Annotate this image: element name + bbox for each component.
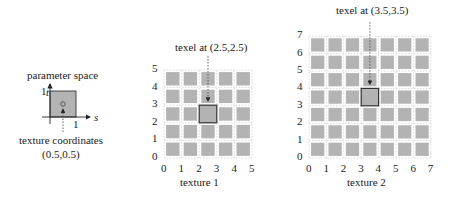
axis-s-label: s xyxy=(94,112,98,123)
texture2-texel xyxy=(415,108,428,121)
texture2-texel xyxy=(415,125,428,138)
texture2-texel xyxy=(381,56,394,69)
texture1-texel xyxy=(219,90,232,103)
texture1-texel xyxy=(237,143,250,156)
parameter-space-title: parameter space xyxy=(27,70,98,81)
texture2-texel xyxy=(346,125,359,138)
texture2-texel xyxy=(311,143,324,156)
texture1-texel xyxy=(219,72,232,85)
texture2-texel xyxy=(311,90,324,103)
texture2-texel xyxy=(328,125,341,138)
texture2-texel xyxy=(328,108,341,121)
texture2-texel xyxy=(311,73,324,86)
texture2-texel xyxy=(415,143,428,156)
texture2-y-tick: 7 xyxy=(297,29,303,40)
texture2-x-tick: 0 xyxy=(306,163,312,174)
texture2-texel xyxy=(346,73,359,86)
texture1-x-tick: 2 xyxy=(196,163,202,174)
texture1-y-tick: 4 xyxy=(152,81,158,92)
texture2-y-tick: 0 xyxy=(297,151,303,162)
texture1-texel xyxy=(237,72,250,85)
texture2-x-tick: 4 xyxy=(376,163,382,174)
texture2-texel xyxy=(398,108,411,121)
texture1-texel xyxy=(219,143,232,156)
texture2-texel xyxy=(346,90,359,103)
texture1-texel xyxy=(184,72,197,85)
texture2-texel xyxy=(346,56,359,69)
texture-coordinates-label: texture coordinates xyxy=(19,135,103,146)
texture2-texel xyxy=(346,38,359,51)
texture1-y-tick: 1 xyxy=(152,133,158,144)
texture2-texel xyxy=(398,90,411,103)
texture1-texel xyxy=(184,90,197,103)
texture2-texel xyxy=(311,125,324,138)
texture2-texel xyxy=(346,108,359,121)
texture2-y-tick: 1 xyxy=(297,134,303,145)
texture2-texel xyxy=(363,108,376,121)
texture2-texel xyxy=(415,90,428,103)
texture2-texel xyxy=(328,90,341,103)
texture2-texel xyxy=(363,143,376,156)
texture2-highlight-texel xyxy=(361,88,378,105)
texture2-texel xyxy=(415,56,428,69)
texture2-x-tick: 6 xyxy=(410,163,416,174)
texture2-texel xyxy=(311,108,324,121)
texture2-texel xyxy=(415,73,428,86)
texture2-x-tick: 2 xyxy=(341,163,347,174)
texture1-texel xyxy=(219,125,232,138)
texture2-texel xyxy=(381,143,394,156)
texture2-y-tick: 2 xyxy=(297,116,303,127)
texture1-x-tick: 0 xyxy=(161,163,167,174)
texture1-texel xyxy=(184,143,197,156)
texture2-texel xyxy=(398,73,411,86)
texture2-y-tick: 5 xyxy=(297,64,303,75)
texture1-texel xyxy=(184,125,197,138)
texture1-y-tick: 3 xyxy=(152,98,158,109)
texture1-texel xyxy=(237,125,250,138)
texture1-y-tick: 5 xyxy=(152,63,158,74)
texture1-texel xyxy=(237,90,250,103)
tick-s-1: 1 xyxy=(73,119,79,130)
texture2-x-tick: 3 xyxy=(358,163,364,174)
texture2-caption: texture 2 xyxy=(347,177,386,188)
texture1-texel xyxy=(166,125,179,138)
texture2-texel xyxy=(346,143,359,156)
texture2-texel xyxy=(398,56,411,69)
texture1-texel xyxy=(201,143,214,156)
texture1-x-tick: 4 xyxy=(231,163,237,174)
texture2-texel xyxy=(398,125,411,138)
tick-t-1: 1 xyxy=(41,86,47,97)
texture-coordinates-value: (0.5,0.5) xyxy=(42,149,80,160)
texture1-title: texel at (2.5,2.5) xyxy=(175,42,247,53)
texture2-texel xyxy=(311,38,324,51)
texture1-texel xyxy=(166,107,179,120)
texture2-texel xyxy=(363,125,376,138)
texture1-texel xyxy=(237,107,250,120)
texture2-texel xyxy=(381,125,394,138)
texture2-x-tick: 7 xyxy=(428,163,434,174)
texture2-texel xyxy=(311,56,324,69)
texture1-texel xyxy=(166,72,179,85)
texture1-texel xyxy=(166,90,179,103)
texture2-title: texel at (3.5,3.5) xyxy=(336,5,408,16)
texture2-texel xyxy=(328,56,341,69)
texture2-texel xyxy=(381,38,394,51)
texture1-y-tick: 0 xyxy=(152,151,158,162)
texture1-x-tick: 1 xyxy=(179,163,185,174)
texture2-texel xyxy=(328,73,341,86)
texture2-y-tick: 3 xyxy=(297,99,303,110)
texture2-texel xyxy=(381,90,394,103)
texture2-x-tick: 5 xyxy=(393,163,399,174)
texture2-texel xyxy=(381,108,394,121)
texture1-x-tick: 3 xyxy=(214,163,220,174)
texture2-y-tick: 6 xyxy=(297,47,303,58)
texture1-texel xyxy=(166,143,179,156)
texture2-y-tick: 4 xyxy=(297,81,303,92)
texture2-texel xyxy=(398,143,411,156)
texture1-highlight-texel xyxy=(199,105,217,123)
texture2-texel xyxy=(398,38,411,51)
texture2-x-tick: 1 xyxy=(323,163,329,174)
texture1-x-tick: 5 xyxy=(249,163,255,174)
texture1-caption: texture 1 xyxy=(180,177,219,188)
texture2-texel xyxy=(328,143,341,156)
